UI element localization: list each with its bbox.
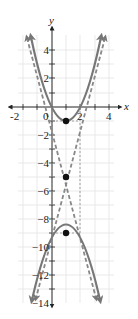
svg-text:-2: -2 xyxy=(10,110,19,122)
svg-text:−10: −10 xyxy=(32,241,50,253)
x-axis-label: x xyxy=(123,100,129,112)
grid xyxy=(18,35,114,303)
axes xyxy=(10,28,120,306)
svg-text:−14: −14 xyxy=(32,297,50,309)
svg-text:4: 4 xyxy=(44,44,50,56)
intersection-point xyxy=(63,174,69,180)
svg-text:−12: −12 xyxy=(32,269,49,281)
svg-text:−8: −8 xyxy=(37,213,49,225)
svg-text:−4: −4 xyxy=(37,157,49,169)
vertex-point-upper xyxy=(63,118,69,124)
svg-text:2: 2 xyxy=(77,110,83,122)
coordinate-plane: -2 0 2 4 4 2 −2 −4 −6 −8 −10 −12 −14 x y xyxy=(0,0,138,319)
svg-text:2: 2 xyxy=(44,72,50,84)
y-axis-label: y xyxy=(48,14,54,26)
svg-text:4: 4 xyxy=(106,110,112,122)
y-tick-labels: 4 2 −2 −4 −6 −8 −10 −12 −14 xyxy=(32,44,50,309)
svg-text:0: 0 xyxy=(43,110,49,122)
svg-text:−2: −2 xyxy=(37,129,49,141)
vertex-point-lower xyxy=(63,230,69,236)
svg-text:−6: −6 xyxy=(37,185,49,197)
